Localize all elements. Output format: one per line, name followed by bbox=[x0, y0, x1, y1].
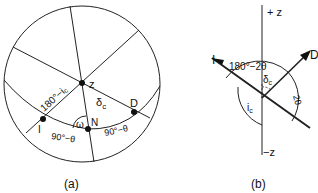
arc-ic bbox=[238, 87, 262, 125]
caption-b: (b) bbox=[251, 177, 266, 191]
point-i bbox=[40, 116, 46, 122]
label-z: z bbox=[89, 78, 95, 90]
point-d bbox=[131, 109, 137, 115]
label-delta-c-b: δc bbox=[263, 74, 273, 86]
label-minus-z: −z bbox=[263, 146, 275, 158]
label-2theta: 2θ bbox=[291, 94, 303, 106]
diagram-canvas: z D N I 180°−ic δc ω 90°−θ 90°−θ (a) + z… bbox=[0, 0, 318, 193]
panel-b-labels: + z −z I D 180°−2θ δc ic 2θ (b) bbox=[212, 6, 318, 191]
label-d: D bbox=[130, 97, 138, 109]
point-z bbox=[79, 80, 85, 86]
label-180-minus-2theta: 180°−2θ bbox=[229, 61, 267, 72]
label-diffracted-d: D bbox=[310, 48, 318, 62]
label-arc-n-d: 90°−θ bbox=[103, 123, 128, 138]
label-n: N bbox=[91, 117, 98, 128]
label-ic-b: ic bbox=[247, 102, 253, 114]
label-omega: ω bbox=[76, 119, 84, 130]
label-incident-i: I bbox=[212, 53, 215, 67]
panel-b bbox=[211, 5, 311, 155]
label-i: I bbox=[38, 124, 41, 135]
caption-a: (a) bbox=[64, 177, 79, 191]
label-plus-z: + z bbox=[267, 6, 282, 18]
label-180-minus-ic: 180°−ic bbox=[38, 83, 70, 113]
panel-a-labels: z D N I 180°−ic δc ω 90°−θ 90°−θ (a) bbox=[38, 78, 138, 191]
label-arc-i-n: 90°−θ bbox=[51, 131, 76, 144]
label-delta-c: δc bbox=[96, 96, 106, 111]
